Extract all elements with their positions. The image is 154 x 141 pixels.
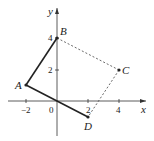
x-tick-label: −2 (21, 105, 31, 115)
point-a (24, 83, 27, 86)
x-axis-label: x (140, 103, 146, 115)
y-axis-label: y (47, 5, 53, 17)
x-tick-label: 0 (49, 105, 54, 115)
segment-bc (57, 38, 119, 70)
point-b (55, 36, 58, 39)
point-a-label: A (14, 79, 22, 91)
y-tick-label: 2 (48, 65, 53, 75)
y-tick-label: 4 (48, 33, 53, 43)
segment-ab (26, 38, 57, 85)
segment-cd (88, 70, 119, 117)
x-tick-label: 2 (86, 105, 91, 115)
point-d-label: D (83, 120, 92, 132)
point-c (117, 68, 120, 71)
point-d (86, 115, 89, 118)
coordinate-diagram: x y −2 0 2 4 2 4 A B C D (0, 0, 154, 141)
x-tick-label: 4 (116, 105, 121, 115)
point-c-label: C (122, 64, 130, 76)
y-axis-arrow-icon (55, 8, 59, 14)
point-b-label: B (60, 25, 67, 37)
